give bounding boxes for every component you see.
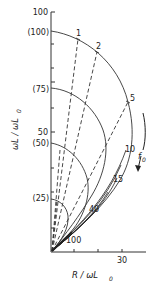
y-tick-100: 100 xyxy=(33,8,48,17)
y-axis-title: ωL / ωL 0 xyxy=(10,109,22,150)
diagram-canvas: 100 50 (100) (75) (50) (25) 30 R / ωL 0 … xyxy=(0,0,155,288)
point-markers xyxy=(76,38,130,103)
label-f15: 15 xyxy=(113,175,123,184)
locus-arc-100 xyxy=(51,31,132,251)
x-axis xyxy=(51,249,146,252)
svg-text:0: 0 xyxy=(15,109,22,113)
arc-label-25: (25) xyxy=(33,194,49,203)
label-f100: 100 xyxy=(66,236,81,245)
f0-label: f 0 xyxy=(138,151,146,163)
svg-text:R / ωL: R / ωL xyxy=(72,270,98,280)
y-tick-50: 50 xyxy=(38,128,48,137)
impedance-locus-diagram: 100 50 (100) (75) (50) (25) 30 R / ωL 0 … xyxy=(0,0,155,288)
label-f5: 5 xyxy=(130,94,135,103)
locus-arc-75 xyxy=(51,88,106,251)
label-f40: 40 xyxy=(89,205,99,214)
arc-label-50: (50) xyxy=(33,139,49,148)
label-f2: 2 xyxy=(96,42,101,51)
svg-text:0: 0 xyxy=(109,275,113,282)
f0-direction-arrow xyxy=(135,113,145,172)
x-tick-30: 30 xyxy=(117,256,127,265)
x-axis-title: R / ωL 0 xyxy=(72,270,113,282)
label-f1: 1 xyxy=(76,29,81,38)
arc-label-100: (100) xyxy=(27,28,49,37)
svg-text:0: 0 xyxy=(142,156,146,163)
label-f10: 10 xyxy=(125,145,135,154)
arc-label-75: (75) xyxy=(33,85,49,94)
radial-line-f1 xyxy=(52,39,78,251)
svg-text:ωL / ωL: ωL / ωL xyxy=(10,118,20,150)
